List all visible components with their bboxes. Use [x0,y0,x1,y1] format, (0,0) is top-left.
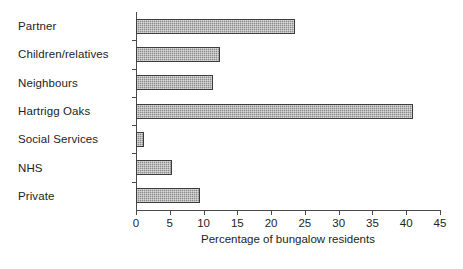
y-axis-tick [132,125,136,126]
category-label: Hartrigg Oaks [18,104,90,118]
bar-chart: PartnerChildren/relativesNeighboursHartr… [0,0,463,269]
y-axis-tick [132,40,136,41]
x-axis-tick-label: 40 [391,217,421,230]
x-axis-tick-label: 15 [222,217,252,230]
category-label: Partner [18,19,56,33]
y-axis-tick [132,153,136,154]
x-axis-tick-label: 10 [189,217,219,230]
x-axis-tick-label: 0 [121,217,151,230]
category-label: Social Services [18,132,98,146]
category-label: Children/relatives [18,47,109,61]
bar [136,160,172,175]
bar [136,75,213,90]
x-axis-line [136,210,441,211]
x-axis-tick [170,211,171,215]
x-axis-tick [136,211,137,215]
x-axis-tick [271,211,272,215]
x-axis-tick [237,211,238,215]
plot-area: 051015202530354045 [136,12,440,210]
x-axis-tick [339,211,340,215]
x-axis-tick-label: 30 [324,217,354,230]
bar [136,19,295,34]
category-label: NHS [18,161,43,175]
category-axis-labels: PartnerChildren/relativesNeighboursHartr… [0,12,130,210]
x-axis-tick [440,211,441,215]
x-axis-tick [372,211,373,215]
category-label: Private [18,189,55,203]
y-axis-tick [132,182,136,183]
bar [136,132,144,147]
x-axis-tick [305,211,306,215]
bar [136,47,220,62]
x-axis-title: Percentage of bungalow residents [136,232,440,246]
bar [136,104,413,119]
x-axis-tick-label: 5 [155,217,185,230]
x-axis-tick-label: 45 [425,217,455,230]
y-axis-tick [132,97,136,98]
bar [136,188,200,203]
x-axis-tick [406,211,407,215]
category-label: Neighbours [18,76,78,90]
y-axis-tick [132,69,136,70]
x-axis-tick [204,211,205,215]
x-axis-tick-label: 25 [290,217,320,230]
x-axis-tick-label: 35 [357,217,387,230]
x-axis-tick-label: 20 [256,217,286,230]
